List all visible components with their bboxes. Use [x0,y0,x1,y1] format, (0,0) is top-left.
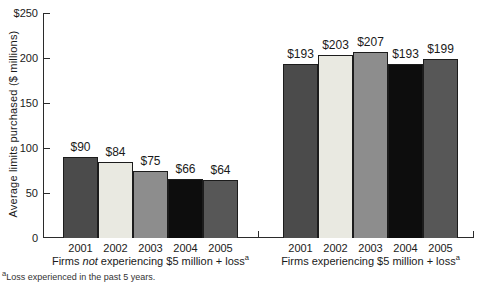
y-tick-labels: $250200150100500 [0,13,38,238]
bar-2003-group2 [353,52,388,238]
bar-value-label: $207 [357,35,384,49]
x-tick-label-year: 2002 [323,242,347,254]
y-tick-mark [44,13,50,14]
bar-value-label: $90 [70,140,90,154]
bar-value-label: $193 [392,47,419,61]
bar-value-label: $66 [175,162,195,176]
bar-2002-group2 [318,55,353,238]
bar-2002-group1 [98,162,133,238]
x-tick-label-year: 2003 [138,242,162,254]
x-tick-label-year: 2001 [288,242,312,254]
bar-value-label: $64 [210,163,230,177]
bar-2004-group2 [388,64,423,238]
group-label-text: Firms experiencing $5 million + loss [281,255,456,267]
x-tick-label-year: 2005 [428,242,452,254]
y-tick-mark [44,58,50,59]
x-axis-divider-tick [258,231,259,237]
group-label: Firms experiencing $5 million + lossa [281,255,460,267]
plot-area: $902001$842002$752003$662004$642005Firms… [43,13,474,238]
y-tick-label: 100 [0,142,38,154]
y-tick-mark [44,103,50,104]
footnote: aLoss experienced in the past 5 years. [2,272,155,282]
x-tick-label-year: 2001 [68,242,92,254]
bar-value-label: $203 [322,38,349,52]
footnote-text: Loss experienced in the past 5 years. [6,272,155,282]
y-tick-label: 150 [0,97,38,109]
group-label-text: experiencing $5 million + loss [98,255,245,267]
y-tick-mark [44,193,50,194]
group-label-text: not [83,255,98,267]
bar-2004-group1 [168,179,203,238]
bar-value-label: $199 [427,42,454,56]
bar-value-label: $193 [287,47,314,61]
group-label-superscript: a [456,253,460,262]
group-label: Firms not experiencing $5 million + loss… [52,255,249,267]
bar-value-label: $75 [140,154,160,168]
group-label-superscript: a [245,253,249,262]
bar-2001-group2 [283,64,318,238]
y-tick-label: $250 [0,7,38,19]
x-tick-label-year: 2004 [393,242,417,254]
x-tick-label-year: 2005 [208,242,232,254]
y-tick-label: 200 [0,52,38,64]
y-tick-mark [44,148,50,149]
bar-value-label: $84 [105,145,125,159]
y-tick-label: 0 [0,232,38,244]
x-tick-label-year: 2004 [173,242,197,254]
bar-2003-group1 [133,171,168,239]
y-tick-label: 50 [0,187,38,199]
group-label-text: Firms [52,255,83,267]
x-tick-label-year: 2002 [103,242,127,254]
x-axis-end-tick [473,231,474,237]
bar-2005-group2 [423,59,458,238]
bar-2005-group1 [203,180,238,238]
bar-2001-group1 [63,157,98,238]
y-axis-line [43,13,44,238]
x-tick-label-year: 2003 [358,242,382,254]
